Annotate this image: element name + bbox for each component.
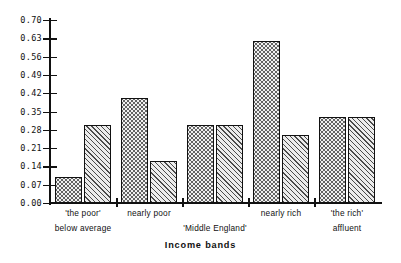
y-axis-tick — [43, 148, 57, 149]
bar — [187, 125, 214, 203]
y-axis-tick — [43, 203, 57, 204]
x-axis-title: Income bands — [0, 240, 401, 250]
x-axis-group-separator — [182, 198, 184, 207]
y-axis-tick-label: 0.21 — [0, 143, 42, 153]
y-axis-tick — [43, 130, 57, 131]
y-axis-tick — [43, 112, 57, 113]
bar — [348, 117, 375, 203]
x-axis-group-separator — [116, 198, 118, 207]
y-axis-tick-label: 0.28 — [0, 125, 42, 135]
bar — [55, 177, 82, 203]
x-axis-label: affluent — [333, 223, 362, 233]
y-axis-tick-label: 0.35 — [0, 107, 42, 117]
y-axis-tick-label: 0.56 — [0, 52, 42, 62]
x-axis-label: nearly poor — [127, 208, 171, 218]
y-axis-tick — [43, 57, 57, 58]
bar — [282, 135, 309, 203]
x-axis-label: 'Middle England' — [183, 223, 247, 233]
bar — [319, 117, 346, 203]
x-axis-label: 'the rich' — [331, 208, 363, 218]
bar-chart: 0.700.630.560.490.420.350.280.210.140.07… — [0, 0, 401, 263]
bar — [253, 41, 280, 203]
bar — [216, 125, 243, 203]
x-axis-label: below average — [55, 223, 112, 233]
y-axis-tick-label: 0.14 — [0, 161, 42, 171]
y-axis-tick-label: 0.42 — [0, 88, 42, 98]
bar — [121, 98, 148, 203]
y-axis-tick — [43, 93, 57, 94]
x-axis-group-separator — [314, 198, 316, 207]
y-axis-tick-label: 0.70 — [0, 15, 42, 25]
y-axis-tick — [43, 38, 57, 39]
x-axis-group-separator — [248, 198, 250, 207]
y-axis-tick — [43, 75, 57, 76]
x-axis-label: nearly rich — [261, 208, 301, 218]
y-axis-tick-label: 0.00 — [0, 198, 42, 208]
y-axis-tick-label: 0.63 — [0, 33, 42, 43]
y-axis-tick — [43, 20, 57, 21]
bar — [84, 125, 111, 203]
bar — [150, 161, 177, 203]
x-axis-label: 'the poor' — [65, 208, 101, 218]
y-axis-tick-label: 0.07 — [0, 180, 42, 190]
y-axis-tick — [43, 166, 57, 167]
plot-area — [50, 20, 380, 203]
y-axis-tick-label: 0.49 — [0, 70, 42, 80]
